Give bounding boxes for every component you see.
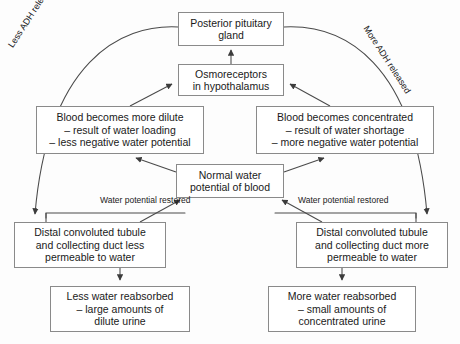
node-line: Normal water (199, 169, 261, 181)
node-dct-less-permeable[interactable]: Distal convoluted tubule and collecting … (14, 222, 166, 268)
node-less-water-reabsorbed[interactable]: Less water reabsorbed – large amounts of… (50, 286, 190, 332)
node-line: – result of water loading (64, 124, 175, 136)
edge-restored-right (275, 213, 416, 218)
node-blood-becomes-concentrated[interactable]: Blood becomes concentrated – result of w… (256, 106, 434, 154)
node-line: Osmoreceptors (195, 68, 267, 80)
edge-label-line: restored (357, 195, 388, 205)
node-line: dilute urine (94, 315, 145, 327)
edge-label-less-adh-released: Less ADH released (6, 0, 56, 49)
node-line: – small amounts of (298, 303, 386, 315)
edge-label-more-adh-released: More ADH released (362, 24, 413, 95)
edge-restored-left (46, 213, 185, 218)
edge-label-water-potential-restored-left: Water potential restored (100, 196, 190, 206)
edge-label-line: Water potential (100, 195, 157, 205)
node-line: concentrated urine (299, 315, 386, 327)
node-line: Posterior pituitary (190, 17, 272, 29)
node-line: Blood becomes more dilute (56, 111, 183, 123)
edge-dilute-to-osmoreceptors (130, 84, 172, 106)
node-line: and collecting duct more (315, 239, 429, 251)
node-line: and collecting duct less (36, 239, 145, 251)
node-osmoreceptors-in-hypothalamus[interactable]: Osmoreceptors in hypothalamus (178, 64, 284, 96)
node-more-water-reabsorbed[interactable]: More water reabsorbed – small amounts of… (268, 286, 416, 332)
node-line: permeable to water (327, 251, 417, 263)
node-line: in hypothalamus (193, 80, 269, 92)
node-line: gland (218, 29, 244, 41)
edge-normal-to-dilute (136, 158, 176, 172)
node-blood-becomes-more-dilute[interactable]: Blood becomes more dilute – result of wa… (36, 106, 204, 154)
node-line: – result of water shortage (286, 124, 404, 136)
edge-label-line: restored (159, 195, 190, 205)
edge-label-water-potential-restored-right: Water potential restored (298, 196, 388, 206)
node-line: Distal convoluted tubule (316, 226, 428, 238)
node-line: potential of blood (190, 181, 270, 193)
node-normal-water-potential-of-blood[interactable]: Normal water potential of blood (176, 164, 284, 198)
edge-concentrated-to-osmoreceptors (290, 84, 330, 106)
node-line: – less negative water potential (49, 136, 190, 148)
node-line: Blood becomes concentrated (277, 111, 413, 123)
node-line: More water reabsorbed (288, 290, 397, 302)
node-posterior-pituitary-gland[interactable]: Posterior pituitary gland (178, 12, 284, 46)
edge-label-line: Water potential (298, 195, 355, 205)
node-line: Distal convoluted tubule (34, 226, 146, 238)
node-line: permeable to water (45, 251, 135, 263)
node-dct-more-permeable[interactable]: Distal convoluted tubule and collecting … (296, 222, 448, 268)
node-line: – large amounts of (77, 303, 164, 315)
node-line: Less water reabsorbed (67, 290, 174, 302)
edge-normal-to-concentrated (284, 158, 324, 172)
node-line: – more negative water potential (272, 136, 419, 148)
osmoregulation-flow-diagram: Posterior pituitary gland Osmoreceptors … (0, 0, 460, 344)
